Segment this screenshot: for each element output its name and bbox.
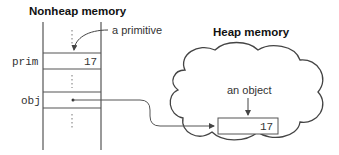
stack-column	[43, 22, 101, 150]
slot-label-prim: prim	[12, 56, 39, 68]
heap-title: Heap memory	[213, 26, 290, 38]
primitive-pointer-arrow	[74, 30, 108, 50]
slot-label-obj: obj	[21, 95, 41, 107]
memory-diagram: Nonheap memory a primitive prim 17 obj H…	[0, 0, 339, 155]
primitive-annotation: a primitive	[112, 24, 162, 36]
nonheap-title: Nonheap memory	[29, 5, 127, 17]
object-annotation: an object	[227, 84, 272, 96]
slot-value-prim: 17	[84, 56, 97, 68]
heap-object-value: 17	[260, 121, 273, 133]
